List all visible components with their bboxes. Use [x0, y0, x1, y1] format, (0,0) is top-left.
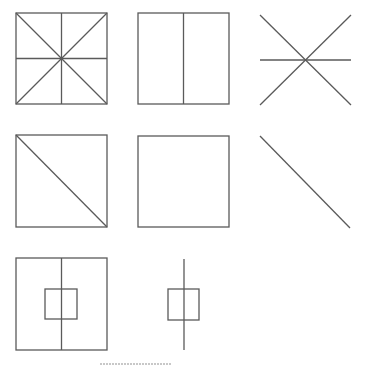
- figure-square-diagonal: [16, 135, 107, 227]
- figure-square-inner-square-vertical: [16, 258, 107, 350]
- figure-small-square-vertical: [168, 259, 199, 350]
- figure-square-vertical-midline: [138, 13, 229, 104]
- figure-plain-square: [138, 136, 229, 227]
- figure-square-diagonals-midlines: [16, 13, 107, 104]
- figure-single-diagonal: [260, 136, 350, 228]
- diagram-canvas: [0, 0, 366, 365]
- figure-x-with-horizontal: [260, 15, 351, 105]
